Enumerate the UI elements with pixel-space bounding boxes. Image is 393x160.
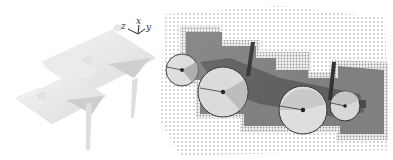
mesh-render-panel: z x y <box>0 0 160 160</box>
mesh-peg-2 <box>38 93 46 99</box>
mesh-object <box>16 25 156 150</box>
fade-overlay <box>160 0 393 160</box>
mesh-peg-1 <box>84 57 92 63</box>
occupancy-map-panel <box>160 0 393 160</box>
axes-gizmo: z x y <box>120 16 152 34</box>
mesh-leg-2 <box>131 78 138 118</box>
mesh-leg-1 <box>86 102 92 150</box>
axis-label-z: z <box>120 21 126 31</box>
axis-label-y: y <box>145 22 152 32</box>
axis-label-x: x <box>136 16 141 26</box>
